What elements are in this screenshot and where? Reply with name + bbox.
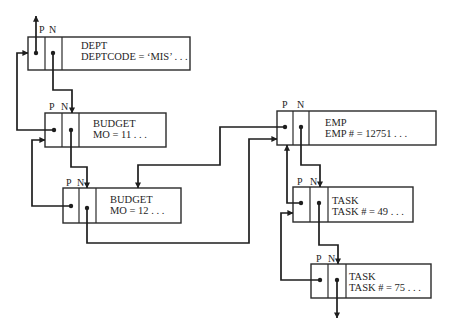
prior-label: P <box>282 99 288 110</box>
record-budget-12: P N BUDGET MO = 12 . . . <box>63 177 181 223</box>
record-pointer-diagram: P N DEPT DEPTCODE = ‘MIS’ . . . P N BUDG… <box>0 0 454 331</box>
next-label: N <box>328 253 335 264</box>
record-budget-11: P N BUDGET MO = 11 . . . <box>45 101 166 147</box>
record-field: MO = 12 . . . <box>110 205 164 216</box>
record-field: DEPTCODE = ‘MIS’ . . . <box>81 51 188 62</box>
record-task-75: P N TASK TASK # = 75 . . . <box>311 253 431 298</box>
record-field: MO = 11 . . . <box>93 129 147 140</box>
pointer-dot <box>69 128 73 132</box>
pointer-dot <box>283 125 287 129</box>
pointer-dot <box>85 206 89 210</box>
prior-label: P <box>316 253 322 264</box>
record-type: EMP <box>325 117 347 128</box>
prior-label: P <box>49 101 55 112</box>
pointer-dot <box>69 204 73 208</box>
pointer-dot <box>299 201 303 205</box>
record-field: EMP # = 12751 . . . <box>325 128 407 139</box>
next-label: N <box>61 101 68 112</box>
record-type: DEPT <box>81 40 108 51</box>
next-label: N <box>297 99 304 110</box>
record-type: TASK <box>332 195 359 206</box>
next-label: N <box>310 176 317 187</box>
record-type: BUDGET <box>110 194 153 205</box>
record-type: BUDGET <box>93 118 136 129</box>
record-task-49: P N TASK TASK # = 49 . . . <box>293 176 413 222</box>
record-type: TASK <box>349 271 376 282</box>
next-label: N <box>49 24 56 35</box>
record-field: TASK # = 75 . . . <box>349 282 421 293</box>
pointer-dot <box>299 125 303 129</box>
pointer-dot <box>51 51 55 55</box>
record-field: TASK # = 49 . . . <box>332 206 404 217</box>
prior-label: P <box>66 177 72 188</box>
pointer-dot <box>52 128 56 132</box>
pointer-dot <box>34 51 38 55</box>
prior-label: P <box>297 176 303 187</box>
next-label: N <box>77 177 84 188</box>
prior-label: P <box>39 24 45 35</box>
pointer-dot <box>335 278 339 282</box>
pointer-dot <box>317 201 321 205</box>
pointer-dot <box>318 278 322 282</box>
